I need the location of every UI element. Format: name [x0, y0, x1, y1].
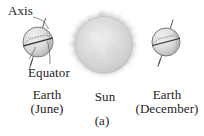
sun-label: Sun [84, 90, 126, 104]
figure-caption: (a) [82, 114, 122, 128]
earth-december-label: Earth (December) [132, 88, 202, 116]
earth-june-label: Earth (June) [18, 88, 76, 116]
axis-label: Axis [8, 4, 33, 18]
earth-sun-seasons-figure: Axis Equator Earth (June) Sun Earth (Dec… [0, 0, 204, 136]
earth-june-graphic [23, 19, 53, 69]
earth-december-name: Earth [132, 88, 202, 102]
equator-label: Equator [28, 66, 70, 80]
earth-december-graphic [152, 20, 180, 67]
earth-december-axis-tip-south [158, 59, 161, 67]
earth-december-month: (December) [132, 102, 202, 116]
sun-disc [76, 17, 133, 74]
sun-graphic [69, 11, 137, 76]
earth-june-name: Earth [18, 88, 76, 102]
earth-june-month: (June) [18, 102, 76, 116]
